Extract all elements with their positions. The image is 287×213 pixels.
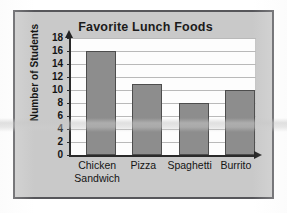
y-axis-tick-label: 12 — [37, 72, 63, 82]
y-axis-tick-label: 0 — [37, 150, 63, 160]
bar — [86, 51, 116, 155]
y-axis-tick-label: 4 — [37, 124, 63, 134]
x-axis-arrow-icon — [254, 151, 262, 159]
y-axis-tick-mark — [67, 51, 71, 52]
bar — [179, 103, 209, 155]
x-axis-category-label: Burrito — [213, 159, 259, 172]
y-axis-tick-label: 18 — [37, 33, 63, 43]
gridline — [71, 38, 256, 39]
y-axis-tick-mark — [67, 64, 71, 65]
x-axis-category-label: Spaghetti — [167, 159, 213, 172]
plot-right-edge — [255, 38, 256, 155]
bar — [132, 84, 162, 156]
y-axis-tick-label: 16 — [37, 46, 63, 56]
y-axis-tick-mark — [67, 116, 71, 117]
bar — [225, 90, 255, 155]
x-axis-category-label: ChickenSandwich — [74, 159, 120, 184]
y-axis-tick-label: 6 — [37, 111, 63, 121]
x-axis-category-label-line: Spaghetti — [167, 159, 213, 172]
y-axis-tick-label: 14 — [37, 59, 63, 69]
y-axis-tick-mark — [67, 38, 71, 39]
y-axis-tick-labels: 024681012141618 — [37, 33, 63, 155]
y-axis-tick-label: 10 — [37, 85, 63, 95]
y-axis-tick-mark — [67, 129, 71, 130]
y-axis-tick-mark — [67, 90, 71, 91]
plot-area — [69, 38, 256, 157]
chart-figure: Favorite Lunch Foods Number of Students … — [13, 10, 274, 199]
x-axis-category-label-line: Burrito — [213, 159, 259, 172]
y-axis-tick-mark — [67, 155, 71, 156]
x-axis-category-labels: ChickenSandwichPizzaSpaghettiBurrito — [69, 159, 254, 195]
x-axis-category-label: Pizza — [120, 159, 166, 172]
y-axis-tick-label: 8 — [37, 98, 63, 108]
x-axis-category-label-line: Pizza — [120, 159, 166, 172]
y-axis-tick-mark — [67, 103, 71, 104]
y-axis-tick-mark — [67, 142, 71, 143]
x-axis-category-label-line: Sandwich — [74, 172, 120, 185]
x-axis-category-label-line: Chicken — [74, 159, 120, 172]
y-axis-tick-label: 2 — [37, 137, 63, 147]
y-axis-tick-mark — [67, 77, 71, 78]
y-axis-arrow-icon — [65, 30, 73, 38]
